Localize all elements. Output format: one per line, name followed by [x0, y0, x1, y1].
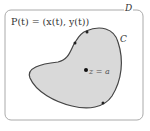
- domain-label: D: [124, 3, 133, 13]
- point-label: z = a: [89, 67, 110, 76]
- curve-point: [102, 102, 105, 105]
- parametrization-label: P(t) = (x(t), y(t)): [11, 16, 89, 27]
- curve-point: [86, 31, 89, 34]
- curve-point: [74, 42, 77, 45]
- point-a: [84, 68, 88, 72]
- curve-label: C: [120, 34, 127, 44]
